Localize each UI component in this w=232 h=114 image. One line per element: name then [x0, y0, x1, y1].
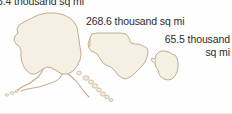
- bottom-edge-divider: [0, 113, 232, 114]
- third-state-area-label: 65.5 thousand sq mi: [152, 33, 230, 58]
- texas-silhouette: [88, 33, 148, 79]
- texas-area-label: 268.6 thousand sq mi: [86, 15, 184, 28]
- alaska-area-label: 6.4 thousand sq mi: [0, 0, 84, 8]
- third-state-area-label-line1: 65.5 thousand: [165, 33, 230, 45]
- infographic-canvas: 6.4 thousand sq mi 268.6 thousand sq mi …: [0, 0, 232, 114]
- third-state-area-label-line2: sq mi: [205, 46, 230, 58]
